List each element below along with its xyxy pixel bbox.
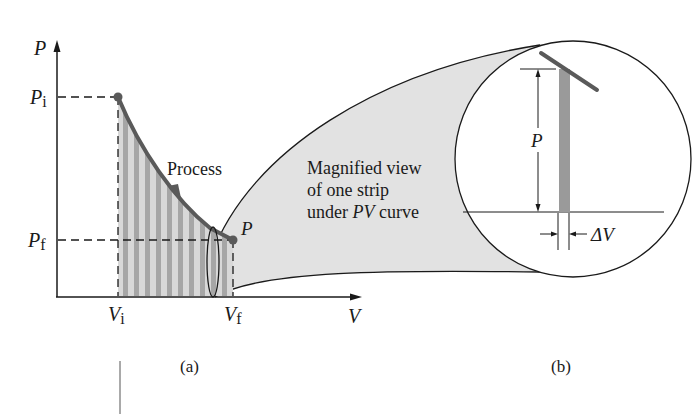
endpoint-label: P bbox=[240, 218, 253, 239]
v-initial-label: Vi bbox=[108, 303, 125, 327]
strip-height-label: P bbox=[530, 130, 543, 151]
caption-b: (b) bbox=[551, 357, 571, 376]
final-point bbox=[229, 236, 238, 245]
y-axis-arrow-icon bbox=[54, 40, 61, 52]
v-final-label: Vf bbox=[224, 303, 242, 327]
pv-diagram: P V Pi Pf Vi Vf Process P Magnified view… bbox=[0, 0, 700, 414]
magnified-text-line-3: under PV curve bbox=[307, 202, 419, 222]
magnified-text-line-2: of one strip bbox=[307, 180, 389, 200]
strip-width-label: ΔV bbox=[590, 224, 616, 245]
magnified-strip bbox=[559, 69, 570, 212]
x-axis-label: V bbox=[348, 305, 363, 327]
p-final-label: Pf bbox=[27, 229, 46, 253]
x-axis-arrow-icon bbox=[350, 294, 362, 301]
magnified-text-line-1: Magnified view bbox=[307, 158, 421, 178]
caption-a: (a) bbox=[180, 357, 199, 376]
process-label: Process bbox=[167, 159, 222, 179]
initial-point bbox=[114, 93, 123, 102]
y-axis-label: P bbox=[33, 37, 46, 59]
p-initial-label: Pi bbox=[29, 86, 47, 110]
